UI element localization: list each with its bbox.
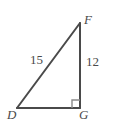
side-length-label-df: 15: [30, 53, 43, 66]
geometry-figure: F D G 15 12: [0, 0, 114, 126]
side-length-label-fg: 12: [86, 55, 99, 68]
vertex-label-g: G: [79, 108, 88, 121]
vertex-label-d: D: [7, 108, 16, 121]
vertex-label-f: F: [84, 13, 92, 26]
side-df-hypotenuse: [17, 23, 80, 108]
